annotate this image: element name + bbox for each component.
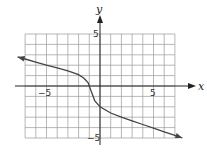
x-axis-label: x	[198, 80, 205, 93]
curve-arrow-right	[175, 133, 183, 138]
y-tick-label-neg5: −5	[87, 133, 100, 143]
x-tick-label-5: 5	[150, 88, 156, 98]
curve-arrow-left	[18, 56, 25, 61]
y-axis-label: y	[95, 3, 103, 16]
function-graph: x y −5 5 5 −5	[0, 0, 207, 152]
y-tick-label-5: 5	[93, 29, 99, 39]
x-tick-label-neg5: −5	[38, 88, 51, 98]
